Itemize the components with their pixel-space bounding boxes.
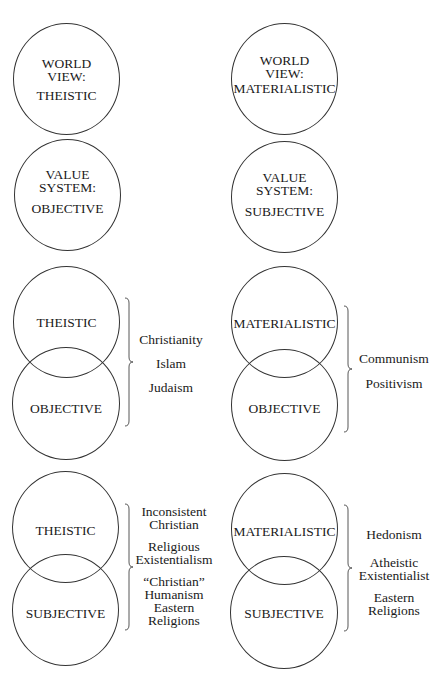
- combo3-top-label: THEISTIC: [12, 524, 119, 537]
- example-item: Judaism: [136, 381, 206, 394]
- combo2-top-label: MATERIALISTIC: [231, 317, 338, 330]
- example-line: Existentialist: [354, 569, 434, 582]
- combo1-bottom-label: OBJECTIVE: [12, 402, 120, 415]
- line: SYSTEM:: [231, 184, 338, 197]
- combo4-examples: Hedonism Atheistic Existentialist Easter…: [354, 528, 434, 617]
- example-line: Existentialism: [134, 553, 214, 566]
- example-line: Christian: [134, 518, 214, 531]
- combo1-examples: Christianity Islam Judaism: [136, 333, 206, 394]
- example-item: Christianity: [136, 333, 206, 346]
- line: THEISTIC: [13, 89, 120, 102]
- example-line: Religions: [134, 614, 214, 627]
- combo4-brace: [343, 504, 353, 632]
- line: OBJECTIVE: [14, 202, 121, 215]
- combo4-top-label: MATERIALISTIC: [231, 525, 338, 538]
- example-item: Islam: [136, 357, 206, 370]
- combo3-brace: [124, 503, 134, 631]
- worldview-materialistic-label: WORLD VIEW: MATERIALISTIC: [231, 54, 338, 95]
- combo1-top-label: THEISTIC: [13, 316, 120, 329]
- line: SYSTEM:: [14, 181, 121, 194]
- combo2-brace: [343, 305, 353, 433]
- combo2-bottom-label: OBJECTIVE: [231, 402, 338, 415]
- example-line: Religions: [354, 604, 434, 617]
- line: VIEW:: [231, 67, 338, 80]
- combo3-bottom-label: SUBJECTIVE: [12, 607, 119, 620]
- worldview-theistic-label: WORLD VIEW: THEISTIC: [13, 57, 120, 102]
- example-item: Communism: [354, 352, 434, 365]
- combo4-bottom-label: SUBJECTIVE: [230, 607, 338, 620]
- combo3-examples: Inconsistent Christian Religious Existen…: [134, 505, 214, 627]
- example-item: Positivism: [354, 377, 434, 390]
- example-line: Hedonism: [354, 528, 434, 541]
- combo2-examples: Communism Positivism: [354, 352, 434, 390]
- combo1-brace: [124, 297, 134, 427]
- line: SUBJECTIVE: [231, 205, 338, 218]
- value-objective-label: VALUE SYSTEM: OBJECTIVE: [14, 168, 121, 215]
- value-subjective-label: VALUE SYSTEM: SUBJECTIVE: [231, 171, 338, 218]
- line: VIEW:: [13, 70, 120, 83]
- line: MATERIALISTIC: [231, 82, 338, 95]
